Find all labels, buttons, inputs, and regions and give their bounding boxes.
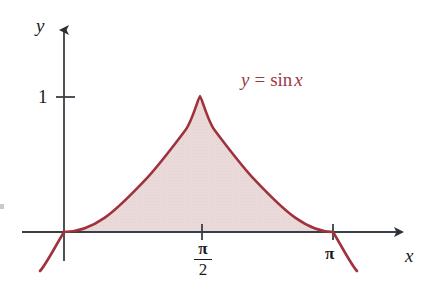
y-axis-label: y xyxy=(36,16,44,35)
equation-operator: = xyxy=(249,69,270,90)
x-tick-label-pi-over-two: π 2 xyxy=(194,240,212,279)
sine-area-figure: y x 1 π 2 π y=sinx xyxy=(0,0,426,301)
y-tick-label-one: 1 xyxy=(38,87,48,106)
x-tick-label-pi: π xyxy=(325,245,334,262)
equation-function-name: sin xyxy=(270,69,294,90)
fraction-numerator: π xyxy=(194,240,212,258)
x-axis-label: x xyxy=(405,246,413,265)
fraction-denominator: 2 xyxy=(194,261,212,279)
plot-canvas xyxy=(0,0,426,301)
equation-argument: x xyxy=(294,69,302,90)
page-edge-artifact xyxy=(0,204,4,209)
curve-equation-label: y=sinx xyxy=(241,70,303,89)
shaded-area-under-curve xyxy=(64,96,333,232)
